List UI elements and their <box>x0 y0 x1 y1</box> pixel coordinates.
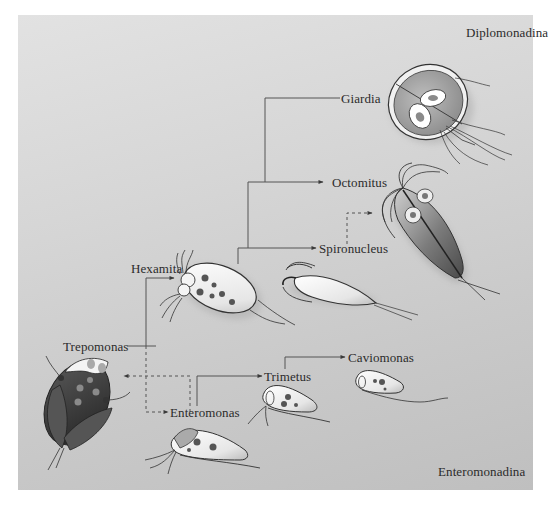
trepomonas-organism <box>31 350 130 470</box>
enteromonas-organism <box>145 429 260 474</box>
taxon-label-spironucleus: Spironucleus <box>319 242 388 255</box>
branch-octomitus <box>248 182 323 248</box>
branch-trimetus <box>197 376 262 406</box>
branch-giardia <box>265 98 340 182</box>
taxon-label-hexamita: Hexamita <box>131 262 182 275</box>
taxon-label-octomitus: Octomitus <box>332 176 387 189</box>
spironucleus-organism <box>283 262 418 320</box>
group-label-diplomonadina: Diplomonadina <box>466 26 548 39</box>
dashed-spironucleus-to-octomitus <box>347 213 372 244</box>
group-label-enteromonadina: Enteromonadina <box>438 465 525 478</box>
caviomonas-organism <box>356 371 448 402</box>
branch-hexamita <box>146 278 174 346</box>
branch-caviomonas <box>285 357 345 369</box>
taxon-label-trepomonas: Trepomonas <box>63 340 129 353</box>
taxon-label-giardia: Giardia <box>341 92 381 105</box>
dashed-trepomonas-to-enteromonas <box>146 346 168 412</box>
taxon-label-caviomonas: Caviomonas <box>348 351 414 364</box>
branch-spironucleus <box>238 248 316 264</box>
trimetus-organism <box>248 386 330 426</box>
giardia-organism <box>376 52 512 165</box>
taxon-label-enteromonas: Enteromonas <box>170 406 240 419</box>
octomitus-organism <box>382 163 500 300</box>
taxon-label-trimetus: Trimetus <box>264 370 311 383</box>
phylogeny-scene <box>0 0 551 505</box>
